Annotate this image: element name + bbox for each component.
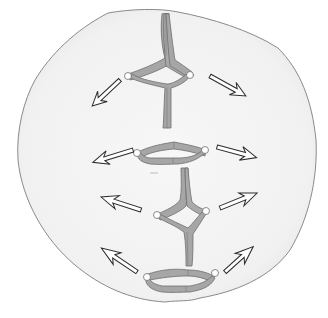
centromere xyxy=(202,147,209,154)
centromere xyxy=(134,150,141,157)
centromere xyxy=(125,73,132,80)
centromere xyxy=(144,274,151,281)
centromere xyxy=(154,212,161,219)
centromere xyxy=(203,208,210,215)
centromere xyxy=(212,270,219,277)
cell-division-diagram: Cell in anaphase with chromosomes separa… xyxy=(0,0,328,318)
centromere xyxy=(187,72,194,79)
diagram-canvas xyxy=(0,0,328,318)
